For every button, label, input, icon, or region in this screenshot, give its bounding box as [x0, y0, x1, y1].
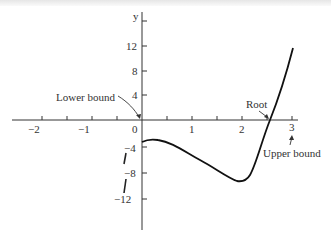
- x-tick-label: 1: [189, 123, 195, 135]
- x-tick-label: −1: [78, 123, 90, 135]
- x-tick-label: 2: [239, 123, 245, 135]
- y-tick-label: −12: [114, 193, 131, 205]
- arrowhead-icon: [289, 135, 294, 140]
- lower-bound-label: Lower bound: [56, 91, 115, 103]
- root-label: Root: [246, 98, 267, 110]
- y-tick-label: −4: [124, 142, 136, 154]
- y-tick-label: 8: [132, 65, 138, 77]
- x-tick-label: 0: [132, 123, 138, 135]
- x-tick-label: −2: [28, 123, 40, 135]
- y-tick-label: −8: [124, 167, 136, 179]
- arrowhead-icon: [136, 114, 141, 119]
- y-tick-label: 12: [126, 40, 137, 52]
- y-axis-label: y: [133, 10, 139, 22]
- y-tick-label: 4: [132, 89, 138, 101]
- function-curve: [142, 48, 293, 181]
- upper-bound-label: Upper bound: [263, 147, 321, 159]
- x-tick-label: 3: [289, 121, 295, 133]
- x-axis: [12, 116, 298, 120]
- chart: y −2 −1 0 1 2 3 12 8 4 −4 −8 −12 Lower b…: [0, 0, 331, 233]
- y-axis: [142, 12, 147, 230]
